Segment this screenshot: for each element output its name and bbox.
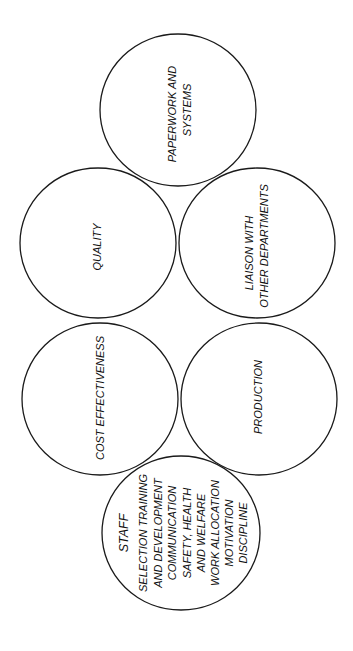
label-production-0: PRODUCTION bbox=[252, 360, 264, 434]
circle-group-paperwork: PAPERWORK ANDSYSTEMS bbox=[100, 34, 256, 186]
label-staff-5: AND WELFARE bbox=[195, 493, 207, 573]
label-staff-8: DISCIPLINE bbox=[237, 502, 249, 564]
label-staff-6: WORK ALLOCATION bbox=[209, 480, 221, 586]
circle-group-quality: QUALITY bbox=[20, 168, 176, 318]
circle-group-liaison: LIAISON WITHOTHER DEPARTMENTS bbox=[179, 168, 335, 318]
label-cost-0: COST EFFECTIVENESS bbox=[94, 335, 106, 460]
circle-group-staff: STAFFSELECTION TRAININGAND DEVELOPMENTCO… bbox=[102, 456, 260, 610]
label-staff-7: MOTIVATION bbox=[223, 499, 235, 566]
label-paperwork-1: SYSTEMS bbox=[181, 83, 193, 136]
label-staff-2: AND DEVELOPMENT bbox=[152, 477, 164, 589]
responsibility-diagram: PAPERWORK ANDSYSTEMSQUALITYLIAISON WITHO… bbox=[0, 0, 353, 651]
label-liaison-0: LIAISON WITH bbox=[243, 216, 255, 291]
label-quality-0: QUALITY bbox=[91, 223, 103, 271]
circle-group-production: PRODUCTION bbox=[181, 323, 337, 475]
circle-paperwork bbox=[100, 34, 256, 186]
circle-liaison bbox=[179, 168, 335, 318]
label-staff-3: COMMUNICATION bbox=[166, 486, 178, 581]
label-staff-4: SAFETY, HEALTH bbox=[181, 488, 193, 579]
label-liaison-1: OTHER DEPARTMENTS bbox=[258, 184, 270, 308]
label-staff-1: SELECTION TRAINING bbox=[137, 474, 149, 592]
circle-group-cost: COST EFFECTIVENESS bbox=[22, 323, 178, 475]
label-paperwork-0: PAPERWORK AND bbox=[166, 66, 178, 162]
label-staff-0: STAFF bbox=[117, 512, 131, 552]
